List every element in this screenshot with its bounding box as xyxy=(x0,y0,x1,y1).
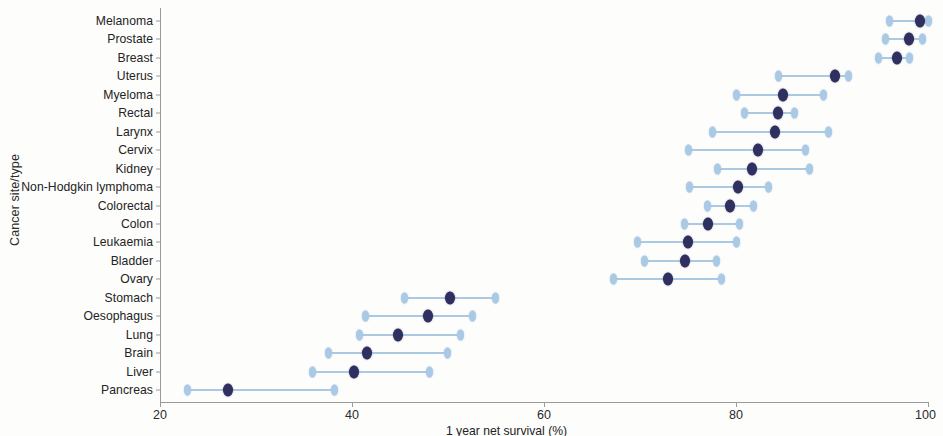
y-axis-tick xyxy=(156,371,160,372)
interval-lower-cap xyxy=(775,71,782,82)
data-row: Breast xyxy=(160,49,928,67)
estimate-point[interactable] xyxy=(725,199,735,212)
estimate-point[interactable] xyxy=(830,70,840,83)
y-axis-tick-label: Cervix xyxy=(118,143,153,157)
y-axis-tick xyxy=(156,168,160,169)
x-axis-tick xyxy=(352,402,353,407)
interval-upper-cap xyxy=(736,218,743,229)
interval-upper-cap xyxy=(750,200,757,211)
y-axis-tick-label: Ovary xyxy=(120,272,153,286)
interval-upper-cap xyxy=(426,366,433,377)
x-axis-tick xyxy=(544,402,545,407)
estimate-point[interactable] xyxy=(680,254,690,267)
estimate-point[interactable] xyxy=(683,236,693,249)
interval-lower-cap xyxy=(875,52,882,63)
estimate-point[interactable] xyxy=(773,107,783,120)
estimate-point[interactable] xyxy=(223,384,233,397)
data-row: Ovary xyxy=(160,270,928,288)
x-axis-title: 1 year net survival (%) xyxy=(0,424,943,436)
data-row: Brain xyxy=(160,344,928,362)
data-row: Melanoma xyxy=(160,12,928,30)
estimate-point[interactable] xyxy=(445,291,455,304)
interval-upper-cap xyxy=(718,274,725,285)
y-axis-tick-label: Stomach xyxy=(105,291,153,305)
y-axis-tick-label: Non-Hodgkin lymphoma xyxy=(21,180,153,194)
y-axis-tick-label: Brain xyxy=(124,346,153,360)
interval-upper-cap xyxy=(765,182,772,193)
x-axis-tick xyxy=(736,402,737,407)
x-axis-tick-label: 60 xyxy=(537,408,551,422)
estimate-point[interactable] xyxy=(778,88,788,101)
interval-lower-cap xyxy=(641,255,648,266)
estimate-point[interactable] xyxy=(892,51,902,64)
interval-lower-cap xyxy=(741,108,748,119)
interval-upper-cap xyxy=(802,145,809,156)
estimate-point[interactable] xyxy=(423,310,433,323)
y-axis-tick-label: Uterus xyxy=(117,69,153,83)
interval-lower-cap xyxy=(709,126,716,137)
data-row: Non-Hodgkin lymphoma xyxy=(160,178,928,196)
data-row: Prostate xyxy=(160,30,928,48)
estimate-point[interactable] xyxy=(703,217,713,230)
data-row: Pancreas xyxy=(160,381,928,399)
data-row: Uterus xyxy=(160,67,928,85)
estimate-point[interactable] xyxy=(393,328,403,341)
y-axis-title-text: Cancer site/type xyxy=(8,154,22,246)
y-axis-tick-label: Lung xyxy=(126,328,153,342)
interval-upper-cap xyxy=(457,329,464,340)
interval-upper-cap xyxy=(331,385,338,396)
y-axis-tick-label: Kidney xyxy=(115,162,153,176)
survival-dot-plot-figure: Cancer site/type MelanomaProstateBreastU… xyxy=(0,0,943,436)
interval-lower-cap xyxy=(184,385,191,396)
data-row: Myeloma xyxy=(160,86,928,104)
interval-upper-cap xyxy=(713,255,720,266)
confidence-interval-bar xyxy=(365,315,473,317)
y-axis-tick xyxy=(156,131,160,132)
interval-lower-cap xyxy=(356,329,363,340)
estimate-point[interactable] xyxy=(904,33,914,46)
y-axis-tick xyxy=(156,76,160,77)
data-row: Larynx xyxy=(160,123,928,141)
y-axis-tick xyxy=(156,94,160,95)
x-axis-tick-label: 80 xyxy=(729,408,743,422)
y-axis-title: Cancer site/type xyxy=(4,0,26,400)
estimate-point[interactable] xyxy=(915,15,925,28)
interval-upper-cap xyxy=(791,108,798,119)
y-axis-tick xyxy=(156,242,160,243)
data-row: Cervix xyxy=(160,141,928,159)
confidence-interval-bar xyxy=(745,112,795,114)
x-axis-tick-label: 20 xyxy=(153,408,167,422)
data-row: Lung xyxy=(160,326,928,344)
estimate-point[interactable] xyxy=(753,144,763,157)
y-axis-tick xyxy=(156,223,160,224)
interval-upper-cap xyxy=(469,311,476,322)
y-axis-tick-label: Colorectal xyxy=(98,199,153,213)
estimate-point[interactable] xyxy=(770,125,780,138)
y-axis-tick xyxy=(156,260,160,261)
interval-lower-cap xyxy=(882,34,889,45)
estimate-point[interactable] xyxy=(733,181,743,194)
data-row: Rectal xyxy=(160,104,928,122)
interval-lower-cap xyxy=(309,366,316,377)
interval-lower-cap xyxy=(325,348,332,359)
y-axis-tick-label: Prostate xyxy=(107,32,153,46)
estimate-point[interactable] xyxy=(747,162,757,175)
estimate-point[interactable] xyxy=(349,365,359,378)
estimate-point[interactable] xyxy=(362,347,372,360)
interval-upper-cap xyxy=(806,163,813,174)
y-axis-tick xyxy=(156,150,160,151)
y-axis-tick-label: Leukaemia xyxy=(93,235,153,249)
confidence-interval-bar xyxy=(688,149,805,151)
interval-lower-cap xyxy=(686,182,693,193)
confidence-interval-bar xyxy=(188,389,335,391)
confidence-interval-bar xyxy=(313,371,430,373)
estimate-point[interactable] xyxy=(663,273,673,286)
y-axis-tick-label: Liver xyxy=(126,365,153,379)
y-axis-tick xyxy=(156,353,160,354)
confidence-interval-bar xyxy=(718,168,810,170)
interval-lower-cap xyxy=(714,163,721,174)
y-axis-tick xyxy=(156,205,160,206)
interval-upper-cap xyxy=(845,71,852,82)
x-axis-tick xyxy=(160,402,161,407)
interval-lower-cap xyxy=(362,311,369,322)
